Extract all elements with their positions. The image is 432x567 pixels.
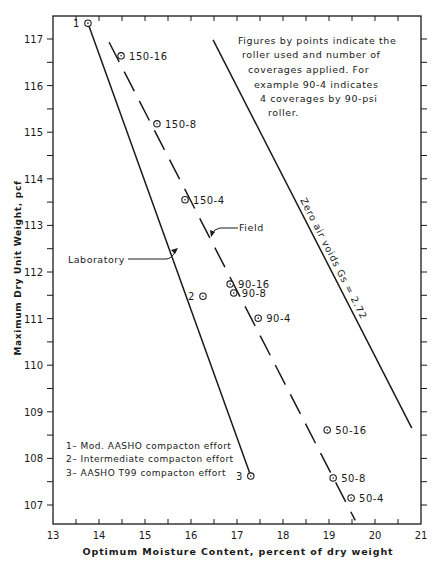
- x-tick-label: 15: [139, 530, 152, 541]
- y-tick-label: 114: [24, 174, 43, 185]
- y-tick-label: 117: [24, 34, 43, 45]
- field-point-label: 50-8: [341, 473, 366, 484]
- note-line-4: 4 coverages by 90-psi: [260, 93, 378, 104]
- laboratory-point-dot: [87, 22, 89, 24]
- y-tick-label: 108: [24, 453, 43, 464]
- x-tick-label: 16: [185, 530, 198, 541]
- field-point-label: 150-8: [165, 119, 197, 130]
- y-tick-label: 110: [24, 360, 43, 371]
- chart: 1314151617181920211071081091101111121131…: [0, 0, 432, 567]
- field-point-label: 90-4: [266, 313, 291, 324]
- field-point-dot: [332, 477, 334, 479]
- note-line-2: coverages applied. For: [248, 64, 369, 75]
- field-point-dot: [229, 283, 231, 285]
- laboratory-arrowhead: [171, 248, 178, 254]
- laboratory-point-dot: [250, 475, 252, 477]
- legend-line-2: 3– AASHO T99 compacton effort: [66, 468, 226, 478]
- laboratory-line: [88, 23, 251, 476]
- legend-line-0: 1– Mod. AASHO compacton effort: [66, 441, 231, 451]
- field-point-label: 90-8: [242, 288, 267, 299]
- field-point-dot: [350, 497, 352, 499]
- y-axis-label: Maximum Dry Unit Weight, pcf: [13, 180, 23, 355]
- y-tick-label: 116: [24, 81, 43, 92]
- legend-line-1: 2– Intermediate compacton effort: [66, 454, 234, 464]
- zav-label: Zero air voids Gs = 2.72: [298, 196, 369, 321]
- x-axis-label: Optimum Moisture Content, percent of dry…: [82, 546, 393, 557]
- note-line-1: roller used and number of: [242, 49, 381, 60]
- x-tick-label: 13: [47, 530, 60, 541]
- laboratory-point-label: 3: [236, 471, 243, 482]
- field-point-dot: [184, 199, 186, 201]
- field-point-label: 150-16: [129, 51, 167, 62]
- field-point-dot: [120, 55, 122, 57]
- field-point-dot: [326, 429, 328, 431]
- y-tick-label: 115: [24, 127, 43, 138]
- y-tick-label: 109: [24, 407, 43, 418]
- field-point-label: 50-16: [335, 425, 367, 436]
- x-tick-label: 20: [369, 530, 382, 541]
- y-tick-label: 112: [24, 267, 43, 278]
- x-tick-label: 17: [231, 530, 244, 541]
- laboratory-point-dot: [202, 295, 204, 297]
- laboratory-label: Laboratory: [68, 254, 125, 265]
- x-tick-label: 14: [93, 530, 106, 541]
- laboratory-point-label: 1: [73, 18, 80, 29]
- note-line-5: roller.: [268, 107, 299, 118]
- field-point-dot: [156, 123, 158, 125]
- field-point-dot: [257, 317, 259, 319]
- note-line-0: Figures by points indicate the: [238, 35, 396, 46]
- x-tick-label: 18: [277, 530, 290, 541]
- field-point-dot: [233, 292, 235, 294]
- note-line-3: example 90-4 indicates: [254, 79, 379, 90]
- field-point-label: 50-4: [359, 493, 384, 504]
- y-tick-label: 107: [24, 500, 43, 511]
- y-tick-label: 111: [24, 314, 43, 325]
- field-label: Field: [239, 222, 264, 233]
- field-point-label: 150-4: [193, 195, 225, 206]
- laboratory-point-label: 2: [188, 291, 195, 302]
- laboratory-leader: [128, 250, 176, 259]
- x-tick-label: 21: [415, 530, 428, 541]
- field-leader: [212, 228, 238, 234]
- y-tick-label: 113: [24, 220, 43, 231]
- x-tick-label: 19: [323, 530, 336, 541]
